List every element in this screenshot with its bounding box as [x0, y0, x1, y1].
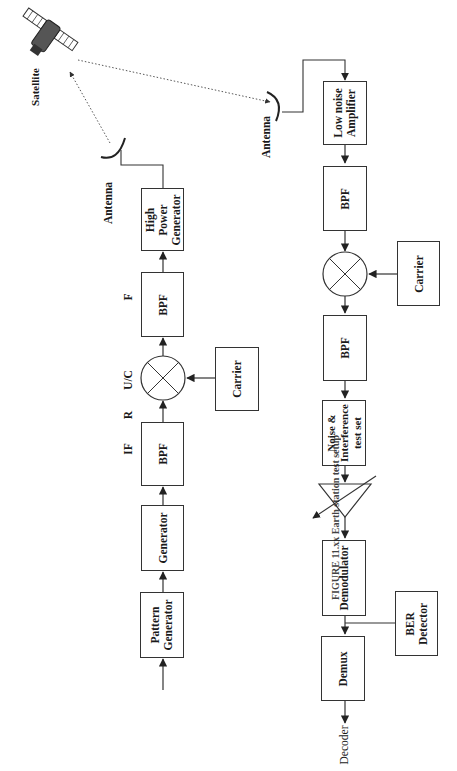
lna-text: Low noise Amplifier — [332, 84, 358, 142]
downlink-antenna-text: Antenna — [260, 116, 272, 158]
signal-label-if: IF — [122, 440, 136, 458]
noise-interference-block: Noise & Interference test set — [322, 400, 366, 466]
signal-label-f: F — [122, 290, 136, 304]
signal-r-text: R — [122, 411, 134, 419]
downlink-antenna-label: Antenna — [260, 114, 274, 160]
demux-text: Demux — [337, 651, 350, 686]
demodulator-block: Demodulator — [322, 540, 366, 616]
downlink-carrier-block: Carrier — [397, 241, 440, 306]
signal-if-text: IF — [122, 443, 134, 455]
downlink-mixer-icon — [323, 252, 367, 296]
decoder-label: Decoder — [338, 722, 352, 768]
pattern-generator-block: Pattern Generator — [140, 592, 184, 658]
uplink-mixer-icon — [141, 356, 185, 400]
figure-caption-text: FIGURE 11.xx Earth station test setup — [330, 435, 341, 600]
signal-uc-text: U/C — [122, 370, 134, 390]
signal-label-r: R — [122, 408, 136, 422]
pattern-generator-text: Pattern Generator — [149, 597, 175, 653]
hpg-text: High Power Generator — [143, 192, 182, 248]
downlink-carrier-text: Carrier — [412, 255, 425, 293]
uplink-bpf-if-text: BPF — [156, 443, 169, 465]
ber-detector-block: BER Detector — [395, 591, 438, 656]
downlink-bpf-1-block: BPF — [323, 166, 367, 231]
uplink-antenna-text: Antenna — [102, 182, 114, 224]
downlink-bpf-1-text: BPF — [339, 188, 352, 210]
low-noise-amplifier-block: Low noise Amplifier — [323, 81, 367, 145]
uplink-bpf-rf-text: BPF — [156, 294, 169, 316]
figure-caption: FIGURE 11.xx Earth station test setup — [330, 340, 342, 600]
signal-f-text: F — [122, 293, 134, 300]
signal-label-uc: U/C — [122, 367, 136, 393]
uplink-antenna-label: Antenna — [102, 180, 116, 226]
satellite-icon — [9, 6, 79, 70]
generator-block: Generator — [141, 505, 184, 571]
demux-block: Demux — [321, 636, 365, 701]
uplink-bpf-if-block: BPF — [141, 422, 184, 486]
high-power-generator-block: High Power Generator — [141, 188, 184, 251]
uplink-carrier-text: Carrier — [231, 360, 244, 398]
variable-amplifier-icon — [313, 476, 376, 518]
satellite-label: Satellite — [29, 67, 43, 107]
decoder-text: Decoder — [338, 726, 350, 765]
generator-text: Generator — [156, 512, 169, 563]
ber-detector-text: BER Detector — [404, 598, 430, 650]
uplink-carrier-block: Carrier — [215, 347, 259, 411]
satellite-label-text: Satellite — [29, 68, 41, 106]
satellite-test-diagram: Satellite Antenna Antenna F U/C R IF Hig… — [0, 0, 457, 771]
uplink-bpf-rf-block: BPF — [141, 272, 184, 337]
